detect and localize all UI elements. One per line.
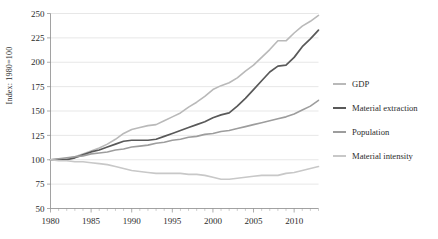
legend-item-material-intensity[interactable]: Material intensity [333,144,437,168]
y-tick-label: 50 [36,204,46,214]
x-tick-label: 1985 [82,216,101,226]
x-tick-label: 2005 [245,216,264,226]
x-tick-label: 2000 [204,216,223,226]
y-tick-label: 125 [31,131,45,141]
y-tick-label: 200 [31,57,45,67]
y-tick-label: 100 [31,155,45,165]
data-series [51,15,319,179]
x-axis-tick-labels: 1980198519901995200020052010 [42,216,304,226]
series-line-material-intensity [51,160,319,180]
legend-item-material-extraction[interactable]: Material extraction [333,96,437,120]
y-tick-label: 225 [31,33,45,43]
legend-item-population[interactable]: Population [333,120,437,144]
x-tick-label: 1995 [163,216,182,226]
x-tick-label: 1980 [42,216,61,226]
legend-label: Population [352,128,389,137]
y-tick-label: 75 [36,179,46,189]
x-axis-ticks [51,209,319,213]
chart-figure: Index: 1980=100 507510012515017520022525… [0,0,438,239]
y-tick-label: 150 [31,106,45,116]
y-axis-tick-labels: 5075100125150175200225250 [31,9,45,214]
legend-swatch-icon [333,131,346,133]
legend-label: Material intensity [352,152,413,161]
gridlines [51,14,319,185]
legend-label: GDP [352,80,369,89]
chart-legend: GDPMaterial extractionPopulationMaterial… [333,72,437,168]
legend-swatch-icon [333,107,346,109]
legend-label: Material extraction [352,104,418,113]
x-tick-label: 1990 [123,216,142,226]
y-axis-ticks [47,14,51,209]
legend-swatch-icon [333,83,346,85]
legend-item-gdp[interactable]: GDP [333,72,437,96]
legend-swatch-icon [333,155,346,157]
y-tick-label: 175 [31,82,45,92]
series-line-material-extraction [51,30,319,160]
y-tick-label: 250 [31,9,45,19]
x-tick-label: 2010 [285,216,304,226]
